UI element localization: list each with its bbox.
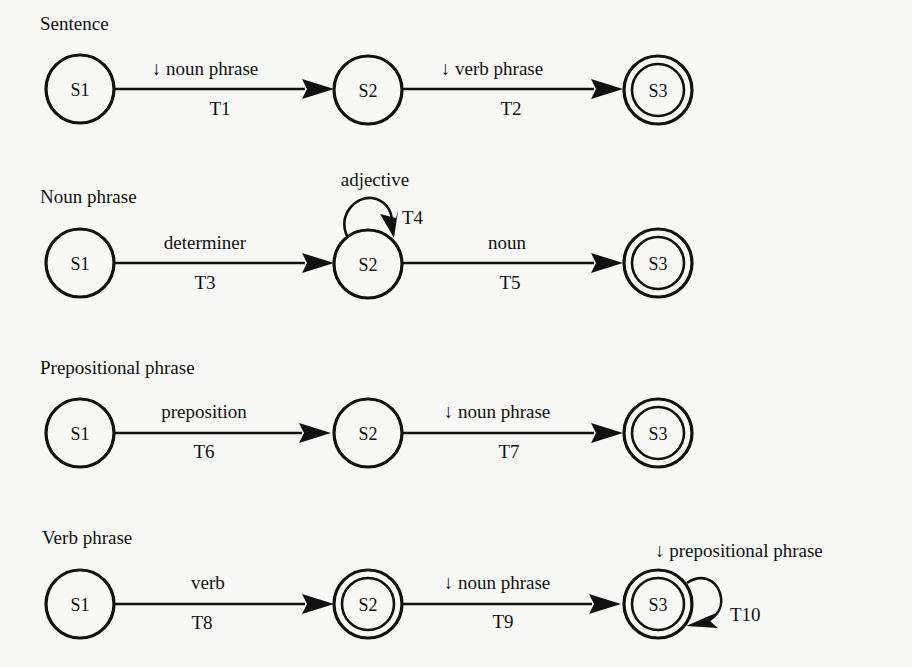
- transition-id: T10: [730, 604, 761, 625]
- state-label: S2: [358, 81, 377, 101]
- arrowhead-icon: [591, 79, 623, 99]
- transition-id: T1: [209, 98, 230, 119]
- network-prepositional-phrase: Prepositional phrase S1 preposition T6 S…: [40, 357, 692, 467]
- transition-t8: verb T8: [114, 572, 334, 633]
- state-label: S2: [358, 424, 377, 444]
- state-s1: S1: [46, 55, 114, 123]
- transition-label: noun: [488, 232, 527, 253]
- arrowhead-icon: [302, 594, 334, 614]
- arrowhead-icon: [591, 423, 623, 443]
- transition-t5: noun T5: [402, 232, 623, 293]
- transition-t2: ↓ verb phrase T2: [402, 58, 623, 119]
- state-s1: S1: [46, 570, 114, 638]
- arrowhead-icon: [299, 423, 331, 443]
- transition-id: T3: [194, 272, 215, 293]
- transition-id: T2: [500, 98, 521, 119]
- network-title: Verb phrase: [42, 527, 132, 548]
- transition-t7: ↓ noun phrase T7: [402, 401, 623, 462]
- transition-id: T8: [191, 612, 212, 633]
- state-s2: S2: [334, 230, 402, 298]
- state-label: S1: [70, 254, 89, 274]
- arrowhead-icon: [589, 594, 621, 614]
- state-s1: S1: [46, 229, 114, 297]
- transition-label: verb: [191, 572, 225, 593]
- arrowhead-icon: [591, 253, 623, 273]
- transition-t1: ↓ noun phrase T1: [114, 58, 334, 119]
- state-label: S2: [358, 595, 377, 615]
- transition-id: T4: [402, 207, 424, 228]
- state-s3-final: S3: [624, 399, 692, 467]
- state-label: S1: [70, 595, 89, 615]
- state-label: S1: [70, 424, 89, 444]
- transition-t9: ↓ noun phrase T9: [402, 572, 621, 632]
- state-label: S3: [648, 595, 667, 615]
- state-s2: S2: [334, 399, 402, 467]
- state-s3-final: S3: [624, 56, 692, 124]
- transition-label: ↓ noun phrase: [444, 572, 551, 593]
- transition-id: T9: [492, 611, 513, 632]
- network-title: Noun phrase: [40, 186, 137, 207]
- state-label: S3: [648, 424, 667, 444]
- state-label: S1: [70, 80, 89, 100]
- transition-label: preposition: [161, 401, 247, 422]
- state-label: S3: [648, 81, 667, 101]
- network-sentence: Sentence S1 ↓ noun phrase T1 S2 ↓ verb p…: [40, 13, 692, 124]
- transition-id: T6: [193, 441, 214, 462]
- transition-id: T7: [498, 441, 519, 462]
- state-s2-final: S2: [334, 570, 402, 638]
- transition-label: determiner: [164, 232, 247, 253]
- transition-id: T5: [499, 272, 520, 293]
- transition-label: ↓ prepositional phrase: [655, 540, 823, 561]
- state-label: S3: [648, 254, 667, 274]
- transition-t6: preposition T6: [114, 401, 331, 462]
- arrowhead-icon: [302, 79, 334, 99]
- network-title: Sentence: [40, 13, 109, 34]
- atn-diagram: Sentence S1 ↓ noun phrase T1 S2 ↓ verb p…: [0, 0, 912, 667]
- transition-label: ↓ verb phrase: [441, 58, 543, 79]
- transition-label: adjective: [341, 169, 410, 190]
- transition-label: ↓ noun phrase: [152, 58, 259, 79]
- transition-t10-self-loop: ↓ prepositional phrase T10: [655, 540, 823, 628]
- state-s3-final: S3: [624, 229, 692, 297]
- arrowhead-icon: [302, 253, 334, 273]
- state-s2: S2: [334, 56, 402, 124]
- state-label: S2: [358, 255, 377, 275]
- transition-t3: determiner T3: [114, 232, 334, 293]
- network-verb-phrase: Verb phrase S1 verb T8 S2 ↓ noun phrase …: [42, 527, 823, 638]
- network-noun-phrase: Noun phrase S1 determiner T3 S2 adjectiv…: [40, 169, 692, 298]
- state-s1: S1: [46, 399, 114, 467]
- transition-label: ↓ noun phrase: [444, 401, 551, 422]
- network-title: Prepositional phrase: [40, 357, 195, 378]
- transition-t4-self-loop: adjective T4: [341, 169, 424, 238]
- state-s3-final: S3: [624, 570, 692, 638]
